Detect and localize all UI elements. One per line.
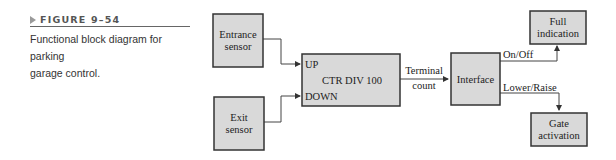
on-off-label: On/Off: [503, 49, 534, 60]
counter-input-up: UP: [305, 59, 319, 70]
wire-entrance-to-up: [263, 39, 300, 64]
lower-raise-label: Lower/Raise: [503, 82, 557, 93]
counter-block: UP CTR DIV 100 DOWN: [302, 54, 400, 106]
counter-title: CTR DIV 100: [322, 75, 382, 86]
wire-lower-raise: [500, 93, 559, 110]
entrance-sensor-block: Entrance sensor: [213, 14, 263, 67]
full-indication-block: Full indication: [530, 11, 586, 44]
block-diagram: Entrance sensor Exit sensor UP CTR DIV 1…: [0, 0, 616, 160]
interface-title: Interface: [457, 74, 495, 85]
full-indication-label-1: Full: [550, 16, 567, 27]
terminal-count-label-1: Terminal: [405, 65, 443, 76]
full-indication-label-2: indication: [537, 28, 580, 39]
wire-exit-to-down: [264, 96, 300, 122]
entrance-sensor-label-1: Entrance: [219, 29, 257, 40]
terminal-count-label-2: count: [412, 80, 435, 91]
gate-activation-block: Gate activation: [531, 113, 587, 146]
interface-block: Interface: [451, 53, 500, 105]
counter-input-down: DOWN: [305, 91, 338, 102]
gate-activation-label-2: activation: [538, 130, 580, 141]
exit-sensor-label-1: Exit: [230, 112, 248, 123]
gate-activation-label-1: Gate: [549, 118, 569, 129]
exit-sensor-label-2: sensor: [226, 124, 253, 135]
exit-sensor-block: Exit sensor: [214, 97, 264, 150]
entrance-sensor-label-2: sensor: [225, 41, 252, 52]
